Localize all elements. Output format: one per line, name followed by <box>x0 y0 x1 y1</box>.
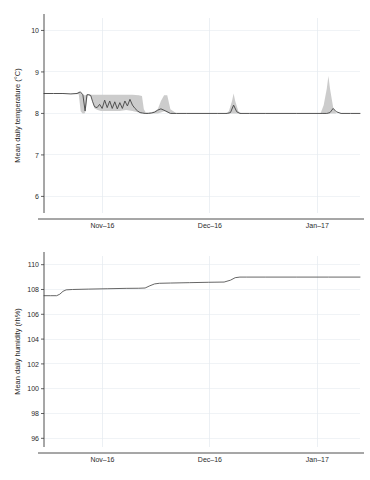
x-tick-label: Dec–16 <box>198 222 222 229</box>
y-tick-label: 106 <box>27 311 39 318</box>
humidity-chart-panel: 9698100102104106108110Nov–16Dec–16Jan–17… <box>0 240 370 480</box>
y-tick-label: 98 <box>31 410 39 417</box>
y-axis-title: Mean daily humidity (rh%) <box>13 308 22 395</box>
y-tick-label: 7 <box>35 152 39 159</box>
y-tick-label: 8 <box>35 110 39 117</box>
y-tick-label: 108 <box>27 286 39 293</box>
series-line-humidity <box>44 277 360 296</box>
x-tick-label: Nov–16 <box>90 222 114 229</box>
y-axis-title: Mean daily temperature (°C) <box>13 68 22 163</box>
y-tick-label: 9 <box>35 69 39 76</box>
y-tick-label: 104 <box>27 336 39 343</box>
y-tick-label: 96 <box>31 435 39 442</box>
x-tick-label: Jan–17 <box>306 222 329 229</box>
temperature-chart-svg: 678910Nov–16Dec–16Jan–17Mean daily tempe… <box>0 0 370 238</box>
y-tick-label: 110 <box>28 261 39 268</box>
temperature-chart-panel: 678910Nov–16Dec–16Jan–17Mean daily tempe… <box>0 0 370 238</box>
x-tick-label: Nov–16 <box>90 456 114 463</box>
humidity-chart-svg: 9698100102104106108110Nov–16Dec–16Jan–17… <box>0 240 370 480</box>
uncertainty-band <box>44 76 360 113</box>
y-tick-label: 102 <box>27 361 39 368</box>
weather-charts-figure: 678910Nov–16Dec–16Jan–17Mean daily tempe… <box>0 0 370 480</box>
y-tick-label: 100 <box>27 385 39 392</box>
y-tick-label: 6 <box>35 193 39 200</box>
y-tick-label: 10 <box>31 27 39 34</box>
x-tick-label: Dec–16 <box>198 456 222 463</box>
x-tick-label: Jan–17 <box>306 456 329 463</box>
